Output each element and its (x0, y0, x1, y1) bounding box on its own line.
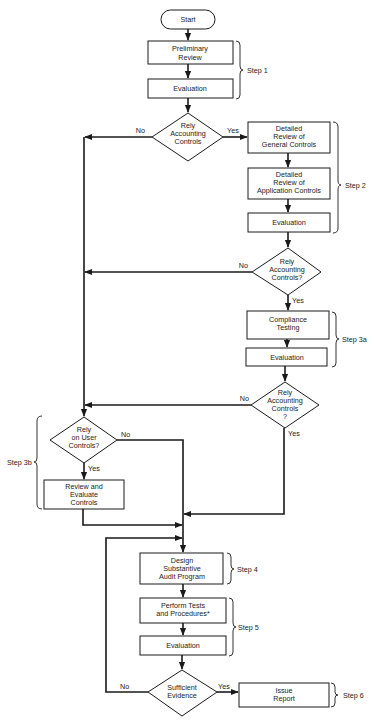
decision3-no-label: No (240, 394, 249, 403)
step3b-brace: Step 3b (7, 416, 42, 509)
svg-text:Report: Report (273, 694, 295, 703)
svg-text:Evaluation: Evaluation (166, 641, 200, 650)
step1-brace: Step 1 (236, 41, 268, 99)
svg-text:and Procedures*: and Procedures* (156, 609, 210, 618)
decision-user-no-label: No (121, 430, 130, 439)
start-label: Start (180, 15, 195, 24)
evaluation-step2-box: Evaluation (248, 213, 330, 232)
decision-rely-accounting-1: Rely Accounting Controls (152, 113, 223, 161)
start-terminal: Start (161, 10, 215, 29)
decision2-yes-label: Yes (292, 296, 304, 305)
step6-label: Step 6 (343, 691, 364, 700)
issue-report-box: Issue Report (239, 683, 329, 707)
audit-flowchart: Start Preliminary Review Evaluation Rely… (0, 0, 374, 728)
svg-text:Evaluation: Evaluation (270, 353, 304, 362)
decision-sufficient-evidence: Sufficient Evidence (148, 670, 217, 716)
decision-rely-accounting-2: Rely Accounting Controls? (252, 248, 321, 295)
compliance-testing-box: Compliance Testing (247, 311, 329, 339)
svg-text:Controls?: Controls? (272, 273, 303, 282)
step5-label: Step 5 (238, 623, 259, 632)
svg-text:Evaluation: Evaluation (173, 84, 207, 93)
step6-brace: Step 6 (331, 683, 364, 707)
step3b-label: Step 3b (7, 458, 32, 467)
svg-text:Review: Review (178, 53, 202, 62)
evaluation-step1-box: Evaluation (148, 79, 233, 98)
svg-text:Evidence: Evidence (167, 691, 197, 700)
perform-tests-box: Perform Tests and Procedures* (140, 598, 226, 623)
evaluation-step5-box: Evaluation (140, 636, 226, 655)
svg-text:Controls?: Controls? (69, 441, 100, 450)
svg-text:?: ? (283, 412, 287, 421)
step2-label: Step 2 (345, 181, 366, 190)
design-audit-program-box: Design Substantive Audit Program (140, 553, 223, 584)
sufficient-yes-label: Yes (218, 682, 230, 691)
svg-text:Evaluation: Evaluation (272, 218, 306, 227)
decision-user-yes-label: Yes (88, 464, 100, 473)
step4-brace: Step 4 (227, 553, 258, 584)
decision3-yes-label: Yes (288, 429, 300, 438)
step2-brace: Step 2 (333, 122, 366, 233)
preliminary-review-box: Preliminary Review (148, 41, 233, 64)
detailed-review-general-box: Detailed Review of General Controls (248, 122, 330, 153)
evaluation-step3a-box: Evaluation (246, 348, 327, 366)
decision-rely-accounting-3: Rely Accounting Controls ? (251, 382, 319, 428)
svg-text:Controls: Controls (175, 137, 202, 146)
review-evaluate-controls-box: Review and Evaluate Controls (44, 480, 124, 509)
sufficient-no-label: No (120, 682, 129, 691)
step4-label: Step 4 (237, 565, 258, 574)
decision1-no-label: No (136, 126, 145, 135)
svg-text:General Controls: General Controls (262, 140, 317, 149)
detailed-review-application-box: Detailed Review of Application Controls (248, 168, 330, 199)
svg-text:Testing: Testing (277, 323, 300, 332)
step3a-label: Step 3a (342, 335, 367, 344)
decision1-yes-label: Yes (227, 126, 239, 135)
svg-text:Application Controls: Application Controls (257, 186, 321, 195)
svg-text:Controls: Controls (71, 498, 98, 507)
decision2-no-label: No (239, 261, 248, 270)
step3a-brace: Step 3a (332, 312, 367, 367)
step1-label: Step 1 (247, 66, 268, 75)
svg-text:Audit Program: Audit Program (159, 572, 205, 581)
decision-rely-user-controls: Rely on User Controls? (50, 417, 117, 463)
step5-brace: Step 5 (229, 598, 259, 656)
